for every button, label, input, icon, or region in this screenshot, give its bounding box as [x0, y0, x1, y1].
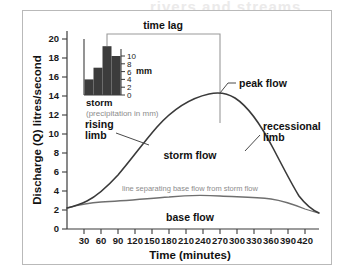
x-tick-label: 240 — [195, 235, 211, 246]
storm-bar — [85, 79, 94, 95]
storm-inset: 0 2 4 6 8 10 mm storm (precipitation in … — [84, 39, 159, 118]
x-tick-label: 300 — [229, 235, 245, 246]
x-tick-label: 180 — [161, 235, 177, 246]
x-tick-label: 270 — [212, 235, 228, 246]
y-tick-label: 14 — [48, 90, 59, 101]
time-lag-bracket: time lag — [107, 19, 220, 123]
storm-flow-label: storm flow — [163, 149, 217, 161]
inset-mm-tick-labels: 0 2 4 6 8 10 — [127, 52, 136, 100]
x-tick-label: 150 — [144, 235, 160, 246]
y-tick-label: 18 — [48, 52, 59, 63]
y-tick-label: 2 — [54, 204, 59, 215]
storm-bar — [112, 56, 121, 95]
storm-bar — [94, 68, 103, 95]
inset-mm-ticks — [121, 56, 125, 95]
x-tick-label: 330 — [246, 235, 262, 246]
y-tick-label: 8 — [54, 147, 59, 158]
y-tick-label: 16 — [48, 71, 59, 82]
separating-line-caption: line separating base flow from storm flo… — [122, 184, 258, 193]
x-tick-label: 390 — [280, 235, 296, 246]
y-axis-ticks — [62, 39, 67, 229]
x-axis-title: Time (minutes) — [149, 249, 231, 261]
hydrograph-figure: 0 2 4 6 8 10 12 14 16 18 20 — [22, 10, 332, 265]
inset-unit-label: mm — [136, 66, 152, 76]
y-tick-label: 4 — [54, 185, 60, 196]
base-flow-label: base flow — [166, 211, 215, 223]
y-tick-labels: 0 2 4 6 8 10 12 14 16 18 20 — [48, 33, 59, 234]
hydrograph-chart: 0 2 4 6 8 10 12 14 16 18 20 — [23, 11, 331, 264]
x-axis-ticks — [84, 229, 305, 234]
inset-tick-label: 4 — [127, 75, 132, 84]
time-lag-label: time lag — [143, 19, 183, 31]
recessional-limb-annotation: recessional limb — [245, 120, 321, 151]
x-tick-label: 60 — [96, 235, 107, 246]
y-tick-label: 6 — [54, 166, 59, 177]
x-tick-label: 90 — [113, 235, 124, 246]
x-tick-label: 120 — [127, 235, 143, 246]
recessional-limb-label-line2: limb — [263, 131, 285, 143]
y-tick-label: 20 — [48, 33, 59, 44]
y-axis-title: Discharge (Q) litres/second — [31, 55, 43, 205]
inset-tick-label: 2 — [127, 83, 132, 92]
peak-flow-annotation: peak flow — [220, 77, 288, 93]
inset-title: storm — [86, 97, 112, 108]
y-tick-label: 10 — [48, 128, 59, 139]
y-tick-label: 12 — [48, 109, 59, 120]
x-tick-label: 30 — [79, 235, 90, 246]
peak-flow-label: peak flow — [239, 77, 288, 89]
inset-tick-label: 6 — [127, 68, 132, 77]
storm-bar — [103, 46, 112, 95]
x-tick-label: 360 — [263, 235, 279, 246]
x-tick-label: 420 — [297, 235, 313, 246]
x-tick-labels: 30 60 90 120 150 180 210 240 270 300 330… — [79, 235, 313, 246]
inset-tick-label: 0 — [127, 91, 132, 100]
y-tick-label: 0 — [54, 223, 59, 234]
rising-limb-label-line2: limb — [85, 129, 107, 141]
rising-limb-annotation: rising limb — [85, 118, 149, 145]
inset-subtitle: (precipitation in mm) — [86, 109, 159, 118]
x-tick-label: 210 — [178, 235, 194, 246]
inset-tick-label: 8 — [127, 60, 132, 69]
inset-tick-label: 10 — [127, 52, 136, 61]
